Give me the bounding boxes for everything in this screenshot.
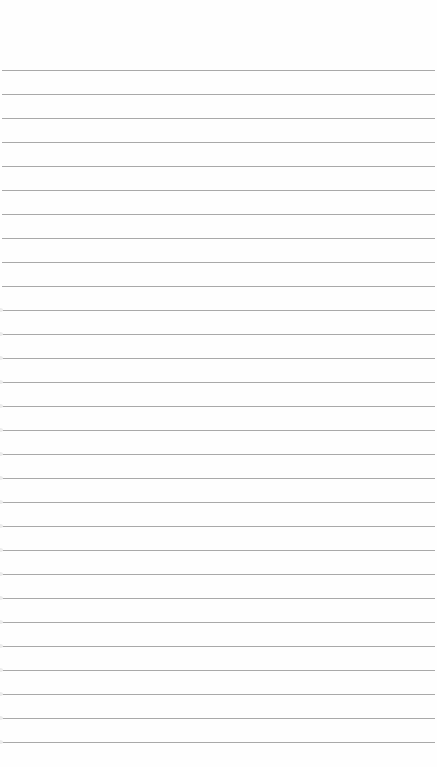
lined-paper-page [0,0,437,767]
ruled-line [2,262,435,263]
ruled-line [2,118,435,119]
ruled-line [2,526,435,527]
ruled-line [2,646,435,647]
ruled-line [2,502,435,503]
ruled-line [2,574,435,575]
ruled-line [2,310,435,311]
ruled-line [2,214,435,215]
ruled-line [2,334,435,335]
ruled-line [2,550,435,551]
perforation-mark [0,716,3,720]
perforation-mark [0,692,3,696]
ruled-line [2,238,435,239]
ruled-line [2,142,435,143]
ruled-line [2,742,435,743]
ruled-line [2,382,435,383]
ruled-line [2,718,435,719]
ruled-line [2,190,435,191]
ruled-line [2,358,435,359]
ruled-line [2,622,435,623]
perforation-mark [0,500,3,504]
perforation-mark [0,428,3,432]
perforation-mark [0,524,3,528]
ruled-line [2,166,435,167]
ruled-line [2,598,435,599]
perforation-mark [0,572,3,576]
ruled-line [2,94,435,95]
perforation-mark [0,308,3,312]
ruled-line [2,70,435,71]
perforation-mark [0,452,3,456]
perforation-mark [0,476,3,480]
ruled-line [2,454,435,455]
perforation-mark [0,356,3,360]
perforation-mark [0,596,3,600]
ruled-line [2,406,435,407]
ruled-line [2,478,435,479]
perforation-mark [0,548,3,552]
perforation-mark [0,404,3,408]
ruled-line [2,430,435,431]
perforation-mark [0,668,3,672]
ruled-line [2,286,435,287]
perforation-mark [0,380,3,384]
perforation-mark [0,644,3,648]
ruled-line [2,670,435,671]
perforation-mark [0,740,3,744]
ruled-line [2,694,435,695]
perforation-mark [0,332,3,336]
perforation-mark [0,620,3,624]
